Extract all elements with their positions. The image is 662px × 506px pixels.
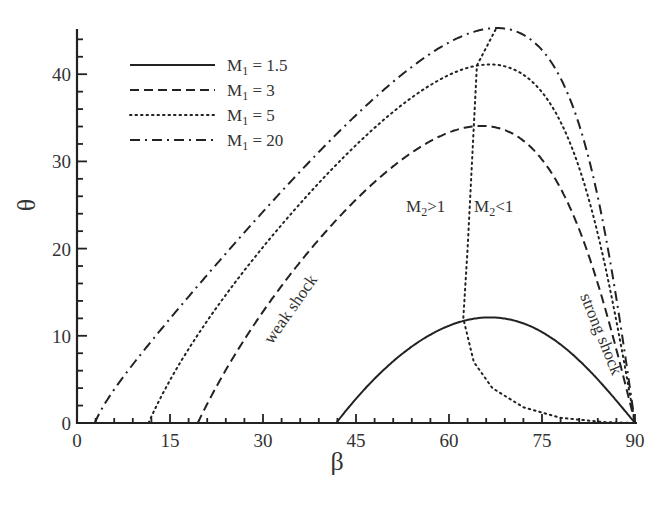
theta-beta-mach-chart: 0153045607590010203040 β θ M1 = 1.5 M1 =… — [0, 0, 662, 506]
x-tick-label: 30 — [254, 430, 273, 451]
axes: 0153045607590010203040 — [52, 29, 645, 451]
m2-subsonic-label: M2<1 — [474, 197, 513, 219]
legend-item-m1-20: M1 = 20 — [130, 131, 283, 153]
legend-label: M1 = 20 — [227, 131, 283, 153]
weak-shock-label: weak shock — [260, 271, 322, 348]
y-tick-label: 40 — [52, 64, 71, 85]
x-tick-label: 60 — [440, 430, 459, 451]
legend-label: M1 = 3 — [227, 81, 275, 103]
curve-m1-1-5 — [336, 317, 635, 423]
curve-m1-3 — [198, 126, 635, 423]
x-axis-title: β — [330, 447, 343, 476]
legend-label: M1 = 1.5 — [227, 56, 287, 78]
y-tick-label: 30 — [52, 151, 71, 172]
y-tick-label: 10 — [52, 326, 71, 347]
curve-m1-5 — [149, 65, 636, 424]
axis-ticks: 0153045607590010203040 — [52, 39, 645, 451]
legend-item-m1-5: M1 = 5 — [130, 106, 275, 128]
x-tick-label: 45 — [347, 430, 366, 451]
m2-supersonic-label: M2>1 — [406, 197, 445, 219]
curve-m1-20 — [95, 28, 635, 423]
legend-item-m1-3: M1 = 3 — [130, 81, 275, 103]
y-tick-label: 20 — [52, 239, 71, 260]
y-axis-title: θ — [12, 199, 41, 211]
legend-label: M1 = 5 — [227, 106, 275, 128]
legend-item-m1-1-5: M1 = 1.5 — [130, 56, 287, 78]
x-tick-label: 15 — [161, 430, 180, 451]
plot-curves — [95, 28, 635, 423]
y-tick-label: 0 — [62, 413, 72, 434]
legend: M1 = 1.5 M1 = 3 M1 = 5 M1 = 20 — [130, 56, 287, 153]
x-tick-label: 75 — [533, 430, 552, 451]
x-tick-label: 90 — [626, 430, 645, 451]
x-tick-label: 0 — [72, 430, 82, 451]
